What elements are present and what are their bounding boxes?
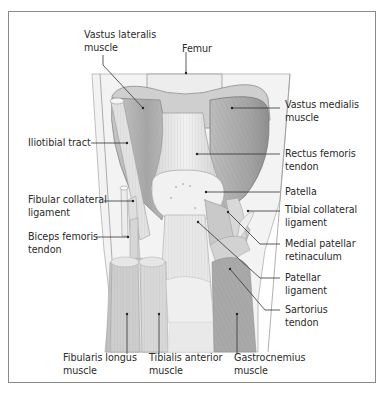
label-biceps-femoris-tendon: Biceps femoris tendon xyxy=(28,231,98,256)
label-medial-patellar-retinaculum: Medial patellar retinaculum xyxy=(285,238,356,263)
label-vastus-lateralis: Vastus lateralis muscle xyxy=(84,29,156,54)
label-fibularis-longus-muscle: Fibularis longus muscle xyxy=(63,352,137,377)
label-patella: Patella xyxy=(285,186,317,199)
label-rectus-femoris-tendon: Rectus femoris tendon xyxy=(285,148,356,173)
label-patellar-ligament: Patellar ligament xyxy=(285,272,327,297)
label-sartorius-tendon: Sartorius tendon xyxy=(285,304,328,329)
label-vastus-medialis: Vastus medialis muscle xyxy=(285,99,359,124)
label-iliotibial-tract: Iliotibial tract xyxy=(28,137,91,150)
label-gastrocnemius-muscle: Gastrocnemius muscle xyxy=(234,352,305,377)
label-tibialis-anterior-muscle: Tibialis anterior muscle xyxy=(149,352,222,377)
label-femur: Femur xyxy=(182,43,212,56)
label-tibial-collateral-ligament: Tibial collateral ligament xyxy=(285,204,357,229)
label-fibular-collateral-ligament: Fibular collateral ligament xyxy=(28,194,107,219)
